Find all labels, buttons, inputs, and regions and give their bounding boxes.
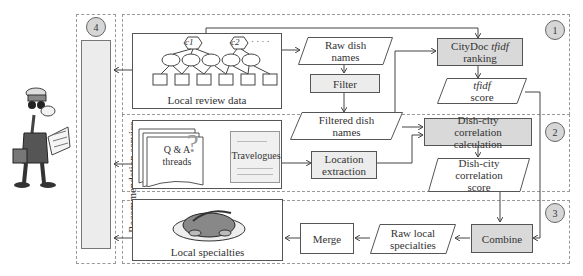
local-specialties-label: Local specialties (133, 246, 282, 258)
ellipsis: · · · · (251, 36, 270, 46)
local-review-data-label: Local review data (133, 94, 281, 106)
raw-dish-names: Raw dish names (298, 37, 393, 65)
dish-city-correlation-score: Dish-city correlation score (428, 158, 530, 192)
location-extraction-box: Location extraction (311, 151, 377, 179)
qa-travelogues-box: Q & A threads ? Travelogues (132, 120, 282, 189)
local-review-data-box: c1 c2 · · · · Local review data (132, 33, 282, 109)
city-node-c2: c2 (231, 37, 240, 47)
merge-box: Merge (300, 223, 354, 254)
combine-box: Combine (471, 224, 533, 253)
city-node-c1: c1 (185, 37, 194, 47)
roast-dish-icon (171, 203, 249, 243)
travelogues-icon: Travelogues (230, 131, 280, 183)
question-mark-icon: ? (187, 129, 199, 159)
citydoc-tfidf-ranking-box: CityDoc tfidf ranking (437, 38, 523, 66)
raw-local-specialties: Raw local specialties (370, 224, 456, 254)
travelogues-label: Travelogues (231, 150, 281, 161)
filter-box: Filter (310, 74, 380, 93)
tfidf-score: tfidf score (437, 78, 527, 104)
filtered-dish-names: Filtered dish names (290, 112, 403, 140)
local-specialties-box: Local specialties (132, 199, 283, 261)
dish-city-correlation-calculation-box: Dish-city correlation calculation (424, 118, 532, 146)
